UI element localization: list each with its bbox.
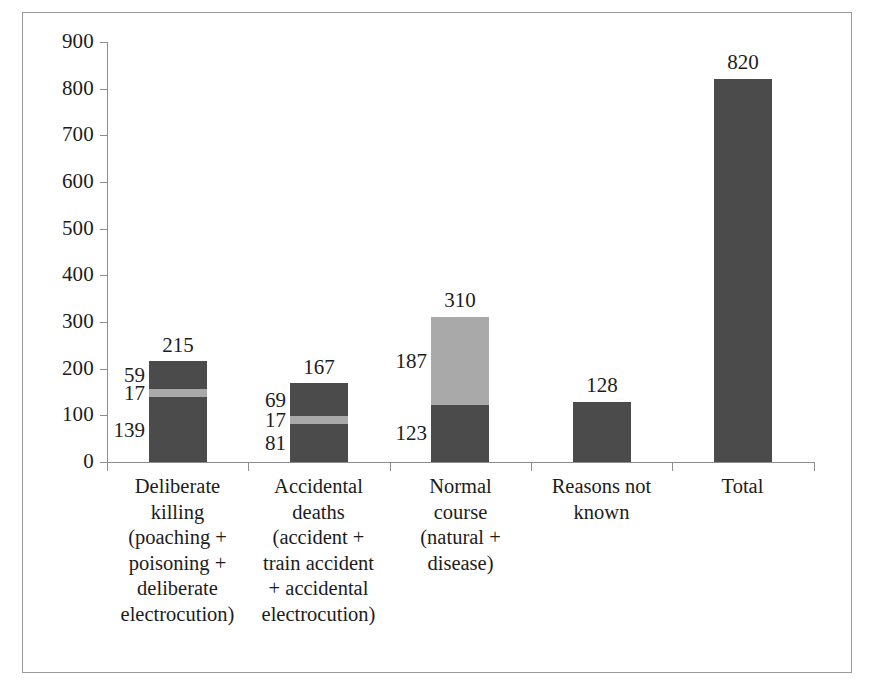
bar-total-label: 167 bbox=[274, 357, 364, 378]
y-axis-tick bbox=[100, 182, 108, 183]
y-axis-tick-label: 200 bbox=[34, 358, 94, 379]
category-label-line: (natural + bbox=[390, 525, 531, 551]
stacked-bar-chart: 9008007006005004003002001000 13917592158… bbox=[0, 0, 870, 691]
y-axis-tick bbox=[100, 135, 108, 136]
x-axis-category-label: Normalcourse(natural +disease) bbox=[390, 474, 531, 576]
bar-segment bbox=[431, 317, 489, 405]
category-label-line: electrocution) bbox=[248, 602, 389, 628]
category-label-line: + accidental bbox=[248, 576, 389, 602]
y-axis-tick-label: 400 bbox=[34, 264, 94, 285]
category-label-line: killing bbox=[107, 500, 248, 526]
bar-total-label: 820 bbox=[698, 52, 788, 73]
y-axis-tick-label: 300 bbox=[34, 311, 94, 332]
category-label-line: Reasons not bbox=[531, 474, 672, 500]
category-label-line: deaths bbox=[248, 500, 389, 526]
bar bbox=[573, 402, 631, 462]
category-label-line: poisoning + bbox=[107, 551, 248, 577]
bar bbox=[290, 384, 348, 462]
bar-segment bbox=[714, 79, 772, 462]
x-axis-tick bbox=[390, 462, 391, 471]
x-axis-tick bbox=[107, 462, 108, 471]
y-axis-tick bbox=[100, 89, 108, 90]
bar-total-label: 128 bbox=[557, 375, 647, 396]
y-axis-tick-label: 0 bbox=[34, 451, 94, 472]
y-axis-tick-label: 500 bbox=[34, 218, 94, 239]
bar-segment bbox=[290, 383, 348, 416]
x-axis-category-label: Reasons notknown bbox=[531, 474, 672, 525]
bar bbox=[714, 79, 772, 462]
x-axis-tick bbox=[248, 462, 249, 471]
bar-segment bbox=[431, 404, 489, 462]
x-axis-line bbox=[107, 462, 814, 463]
category-label-line: train accident bbox=[248, 551, 389, 577]
category-label-line: (poaching + bbox=[107, 525, 248, 551]
category-label-line: Normal bbox=[390, 474, 531, 500]
y-axis-tick bbox=[100, 42, 108, 43]
y-axis-tick-label: 100 bbox=[34, 404, 94, 425]
bar-segment bbox=[573, 402, 631, 462]
category-label-line: Total bbox=[672, 474, 813, 500]
category-label-line: known bbox=[531, 500, 672, 526]
category-label-line: course bbox=[390, 500, 531, 526]
category-label-line: disease) bbox=[390, 551, 531, 577]
category-label-line: deliberate bbox=[107, 576, 248, 602]
bar-segment-label: 81 bbox=[234, 433, 286, 454]
bar-segment-label: 139 bbox=[93, 420, 145, 441]
bar-segment-label: 123 bbox=[375, 423, 427, 444]
bar-segment-label: 59 bbox=[93, 365, 145, 386]
bar bbox=[431, 317, 489, 462]
category-label-line: Accidental bbox=[248, 474, 389, 500]
bar bbox=[149, 362, 207, 462]
bar-segment bbox=[290, 424, 348, 462]
y-axis-tick bbox=[100, 275, 108, 276]
x-axis-tick bbox=[531, 462, 532, 471]
bar-segment-label: 17 bbox=[234, 410, 286, 431]
x-axis-tick bbox=[814, 462, 815, 471]
x-axis-category-label: Total bbox=[672, 474, 813, 500]
x-axis-category-label: Deliberatekilling(poaching +poisoning +d… bbox=[107, 474, 248, 627]
y-axis-tick-label: 700 bbox=[34, 124, 94, 145]
y-axis-tick-label: 600 bbox=[34, 171, 94, 192]
bar-segment-label: 187 bbox=[375, 351, 427, 372]
bar-total-label: 215 bbox=[133, 335, 223, 356]
y-axis-tick bbox=[100, 415, 108, 416]
x-axis-tick bbox=[672, 462, 673, 471]
category-label-line: Deliberate bbox=[107, 474, 248, 500]
y-axis-tick bbox=[100, 229, 108, 230]
bar-segment bbox=[149, 397, 207, 462]
category-label-line: (accident + bbox=[248, 525, 389, 551]
bar-segment bbox=[290, 416, 348, 424]
category-label-line: electrocution) bbox=[107, 602, 248, 628]
y-axis-tick bbox=[100, 322, 108, 323]
bar-segment bbox=[149, 389, 207, 397]
bar-segment-label: 69 bbox=[234, 390, 286, 411]
y-axis-tick-label: 900 bbox=[34, 31, 94, 52]
bar-total-label: 310 bbox=[415, 290, 505, 311]
y-axis-tick-label: 800 bbox=[34, 78, 94, 99]
bar-segment bbox=[149, 361, 207, 389]
x-axis-category-label: Accidentaldeaths(accident +train acciden… bbox=[248, 474, 389, 627]
